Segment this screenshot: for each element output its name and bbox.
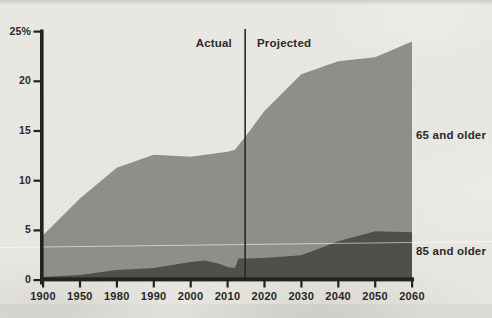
- x-axis-label: 2050: [355, 290, 395, 302]
- actual-projected-divider-line: [244, 29, 246, 281]
- y-axis-tick: [34, 80, 41, 82]
- y-axis-label: 20: [0, 75, 31, 87]
- x-axis-tick: [42, 281, 44, 288]
- x-axis-tick: [263, 281, 265, 288]
- y-axis-label: 5: [0, 224, 31, 236]
- y-axis-tick: [34, 180, 41, 182]
- x-axis-label: 2020: [244, 290, 284, 302]
- y-axis-label: 25%: [0, 26, 31, 38]
- y-axis-label: 15: [0, 125, 31, 137]
- x-axis-tick: [337, 281, 339, 288]
- y-axis-tick: [34, 31, 41, 33]
- y-axis-line: [40, 30, 44, 285]
- x-axis-label: 1950: [60, 290, 100, 302]
- x-axis-label: 2030: [281, 290, 321, 302]
- x-axis-tick: [116, 281, 118, 288]
- actual-label: Actual: [152, 37, 232, 50]
- chart-canvas: [0, 0, 492, 318]
- paper-bottom-texture: [0, 304, 492, 318]
- y-axis-tick: [34, 229, 41, 231]
- x-axis-label: 1900: [23, 290, 63, 302]
- projected-label: Projected: [257, 37, 347, 50]
- y-axis-tick: [34, 279, 41, 281]
- x-axis-tick: [79, 281, 81, 288]
- series-label-65-and-older: 65 and older: [416, 129, 492, 142]
- x-axis-label: 1980: [97, 290, 137, 302]
- x-axis-label: 2040: [318, 290, 358, 302]
- x-axis-tick: [374, 281, 376, 288]
- y-axis-tick: [34, 130, 41, 132]
- x-axis-tick: [300, 281, 302, 288]
- x-axis-tick: [153, 281, 155, 288]
- aging-population-area-chart: 25%20151050 1900195019801990200020102020…: [0, 0, 492, 318]
- paper-top-shade: [0, 0, 492, 5]
- x-axis-tick: [190, 281, 192, 288]
- x-axis-tick: [411, 281, 413, 288]
- series-label-85-and-older: 85 and older: [416, 245, 492, 258]
- x-axis-line: [40, 277, 414, 281]
- y-axis-label: 0: [0, 274, 31, 286]
- x-axis-tick: [227, 281, 229, 288]
- x-axis-label: 2010: [208, 290, 248, 302]
- x-axis-label: 1990: [134, 290, 174, 302]
- y-axis-label: 10: [0, 175, 31, 187]
- x-axis-label: 2060: [392, 290, 432, 302]
- x-axis-label: 2000: [171, 290, 211, 302]
